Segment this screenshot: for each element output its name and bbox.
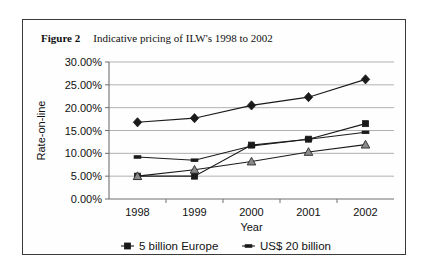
- data-point-marker: [247, 101, 255, 110]
- data-point-marker: [191, 159, 198, 162]
- y-tick-label: 30.00%: [65, 56, 103, 68]
- y-tick-label: 5.00%: [71, 170, 102, 182]
- data-point-marker: [192, 173, 198, 179]
- legend-label: 5 billion Europe: [139, 240, 218, 252]
- figure-caption-text: Indicative pricing of ILW's 1998 to 2002: [93, 32, 273, 44]
- data-point-marker: [190, 114, 198, 123]
- x-tick-label: 2001: [296, 206, 320, 218]
- data-point-marker: [134, 156, 141, 159]
- data-point-marker: [363, 121, 369, 127]
- data-point-marker: [361, 140, 370, 148]
- x-tick-label: 1999: [182, 206, 206, 218]
- data-point-marker: [361, 75, 369, 84]
- x-tick-label: 1998: [125, 206, 149, 218]
- data-point-marker: [304, 93, 312, 102]
- legend-item: US$ 20 billion: [242, 240, 331, 252]
- chart-legend: 5 billion EuropeUS$ 20 billionUS$ 10 bil…: [121, 240, 331, 254]
- legend-label: US$ 20 billion: [260, 240, 331, 252]
- x-axis-title: Year: [240, 221, 263, 233]
- data-series: [133, 75, 369, 127]
- figure-caption: Figure 2Indicative pricing of ILW's 1998…: [41, 32, 273, 44]
- y-tick-label: 10.00%: [65, 147, 103, 159]
- chart-area: 0.00%5.00%10.00%15.00%20.00%25.00%30.00%…: [23, 54, 407, 254]
- line-chart: 0.00%5.00%10.00%15.00%20.00%25.00%30.00%…: [23, 54, 407, 254]
- figure-caption-label: Figure 2: [41, 32, 80, 44]
- y-tick-label: 20.00%: [65, 102, 103, 114]
- figure-frame: Figure 2Indicative pricing of ILW's 1998…: [22, 19, 406, 255]
- data-series-group: [133, 75, 370, 180]
- y-axis-title: Rate-on-line: [35, 101, 47, 161]
- data-point-marker: [133, 118, 141, 127]
- x-tick-label: 2002: [353, 206, 377, 218]
- legend-item: 5 billion Europe: [121, 240, 218, 252]
- y-tick-label: 15.00%: [65, 125, 103, 137]
- x-axis-ticks: 19981999200020012002: [125, 199, 377, 218]
- y-tick-label: 25.00%: [65, 79, 103, 91]
- data-point-marker: [245, 245, 252, 248]
- data-point-marker: [248, 145, 255, 148]
- data-point-marker: [362, 131, 369, 134]
- y-axis-ticks: 0.00%5.00%10.00%15.00%20.00%25.00%30.00%: [65, 56, 109, 205]
- x-tick-label: 2000: [239, 206, 263, 218]
- data-point-marker: [125, 243, 131, 249]
- data-series: [135, 121, 369, 180]
- data-point-marker: [305, 138, 312, 141]
- y-tick-label: 0.00%: [71, 193, 102, 205]
